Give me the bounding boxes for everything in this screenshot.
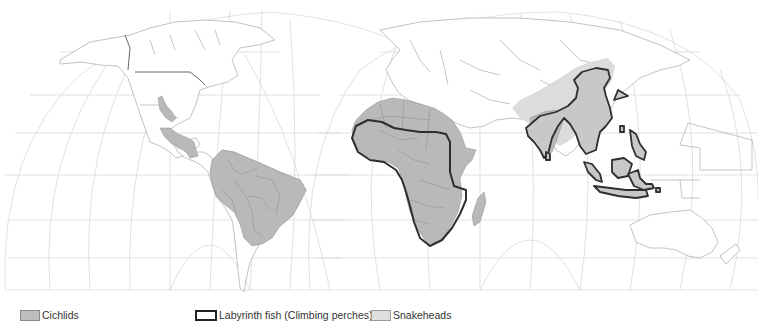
legend-label-labyrinth-fish: Labyrinth fish (Climbing perches) xyxy=(219,309,372,321)
legend-label-cichlids: Cichlids xyxy=(42,309,79,321)
australia xyxy=(630,123,752,264)
cichlids-swatch xyxy=(20,310,40,321)
legend-labyrinth-fish: Labyrinth fish (Climbing perches) xyxy=(195,308,372,322)
legend-label-snakeheads: Snakeheads xyxy=(393,309,451,321)
legend-cichlids: Cichlids xyxy=(20,308,79,322)
world-distribution-map xyxy=(0,0,758,300)
legend-snakeheads: Snakeheads xyxy=(371,308,451,322)
labyrinth-fish-swatch xyxy=(195,310,217,321)
snakeheads-swatch xyxy=(371,310,391,321)
